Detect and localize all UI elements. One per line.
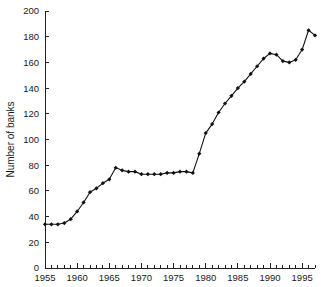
data-point — [114, 166, 118, 170]
x-tick-label: 1955 — [34, 272, 55, 283]
x-axis-tick-labels: 195519601965197019751980198519901995 — [34, 272, 312, 283]
data-point — [126, 170, 130, 174]
data-point — [133, 170, 137, 174]
data-point — [178, 170, 182, 174]
x-tick-label: 1990 — [259, 272, 280, 283]
y-tick-label: 200 — [23, 5, 39, 16]
data-point — [56, 222, 60, 226]
data-point — [184, 170, 188, 174]
data-point — [165, 171, 169, 175]
data-point — [287, 60, 291, 64]
x-tick-label: 1965 — [99, 272, 120, 283]
x-axis-ticks — [45, 263, 315, 268]
data-point — [191, 171, 195, 175]
y-tick-label: 40 — [28, 211, 39, 222]
x-tick-label: 1985 — [227, 272, 248, 283]
y-axis-ticks — [45, 11, 49, 268]
bank-count-line-chart: 020406080100120140160180200 195519601965… — [0, 0, 327, 287]
y-tick-label: 100 — [23, 134, 39, 145]
y-tick-label: 20 — [28, 237, 39, 248]
data-point — [152, 172, 156, 176]
data-point — [171, 171, 175, 175]
y-axis-title: Number of banks — [5, 101, 16, 177]
data-point — [43, 222, 47, 226]
data-point — [120, 168, 124, 172]
y-tick-label: 180 — [23, 31, 39, 42]
y-axis-tick-labels: 020406080100120140160180200 — [23, 5, 39, 273]
x-tick-label: 1975 — [163, 272, 184, 283]
data-point — [197, 152, 201, 156]
x-tick-label: 1980 — [195, 272, 216, 283]
y-tick-label: 140 — [23, 83, 39, 94]
data-point — [49, 222, 53, 226]
x-tick-label: 1960 — [67, 272, 88, 283]
x-tick-label: 1970 — [131, 272, 152, 283]
chart-canvas: 020406080100120140160180200 195519601965… — [0, 0, 327, 287]
y-tick-label: 120 — [23, 108, 39, 119]
data-series-line — [45, 30, 315, 224]
data-series-markers — [43, 28, 317, 226]
y-tick-label: 160 — [23, 57, 39, 68]
y-tick-label: 80 — [28, 160, 39, 171]
data-point — [159, 172, 163, 176]
data-point — [139, 172, 143, 176]
data-point — [146, 172, 150, 176]
y-tick-label: 60 — [28, 185, 39, 196]
x-tick-label: 1995 — [292, 272, 313, 283]
